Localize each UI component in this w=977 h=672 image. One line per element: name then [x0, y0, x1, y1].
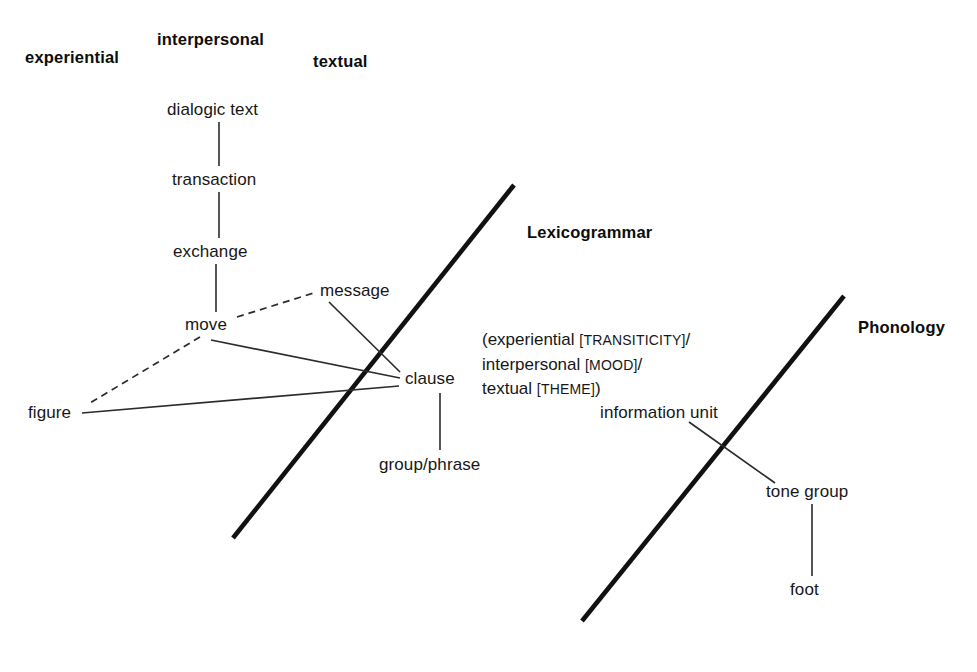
node-figure: figure: [28, 403, 71, 423]
rank-scale-metafunction-diagram: experiential interpersonal textual Lexic…: [0, 0, 977, 672]
node-tone-group: tone group: [766, 482, 848, 502]
metafunction-note-line-1-tail: /: [686, 330, 691, 349]
metafunction-systems-note: (experiential [TRANSITICITY]/ interperso…: [482, 328, 690, 402]
metafunction-note-line-3-text: textual: [482, 379, 537, 398]
metafunction-label-experiential: experiential: [25, 48, 119, 67]
node-message: message: [320, 281, 390, 301]
node-move: move: [185, 315, 227, 335]
edge-move-clause: [211, 340, 400, 378]
stratum-boundary-lexicogrammar: [233, 185, 514, 538]
node-information-unit: information unit: [600, 403, 718, 423]
node-exchange: exchange: [173, 242, 248, 262]
metafunction-note-line-1-text: (experiential: [482, 330, 579, 349]
edge-message-clause: [329, 302, 400, 372]
metafunction-label-interpersonal: interpersonal: [157, 30, 264, 49]
edge-move-message: [237, 292, 317, 317]
node-transaction: transaction: [172, 170, 256, 190]
metafunction-note-line-1: (experiential [TRANSITICITY]/: [482, 328, 690, 353]
system-mood: [MOOD]: [585, 357, 638, 373]
metafunction-label-textual: textual: [313, 52, 368, 71]
node-dialogic-text: dialogic text: [167, 100, 258, 120]
metafunction-note-line-2-tail: /: [638, 355, 643, 374]
stratum-label-phonology: Phonology: [858, 318, 945, 337]
system-theme: [THEME]: [537, 381, 595, 397]
node-group-phrase: group/phrase: [379, 455, 480, 475]
node-foot: foot: [790, 580, 819, 600]
node-clause: clause: [405, 369, 455, 389]
metafunction-note-line-3: textual [THEME]): [482, 377, 690, 402]
metafunction-note-line-2: interpersonal [MOOD]/: [482, 353, 690, 378]
edge-figure-clause: [82, 386, 399, 413]
edge-move-figure: [90, 337, 200, 403]
metafunction-note-line-3-tail: ): [595, 379, 601, 398]
system-transitivity: [TRANSITICITY]: [579, 332, 685, 348]
stratum-label-lexicogrammar: Lexicogrammar: [527, 223, 653, 242]
metafunction-note-line-2-text: interpersonal: [482, 355, 585, 374]
